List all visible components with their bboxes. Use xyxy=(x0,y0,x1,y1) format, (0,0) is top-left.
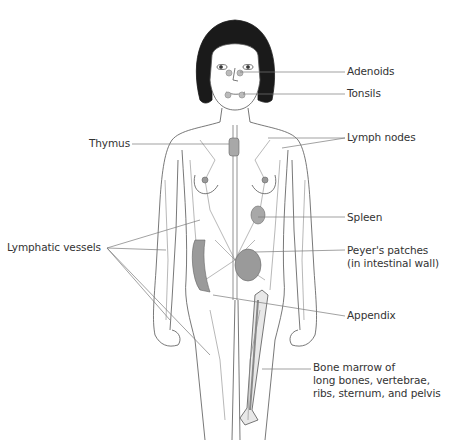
thymus-organ xyxy=(229,138,239,156)
label-thymus: Thymus xyxy=(89,137,130,150)
label-appendix: Appendix xyxy=(347,309,396,322)
label-lymph-nodes: Lymph nodes xyxy=(347,131,416,144)
label-bone-marrow: Bone marrow of long bones, vertebrae, ri… xyxy=(313,361,441,400)
label-spleen: Spleen xyxy=(347,211,382,224)
axillary-node-left xyxy=(202,177,208,183)
intestine-colon xyxy=(192,240,210,292)
label-bone-marrow-line1: Bone marrow of xyxy=(313,361,441,374)
label-tonsils: Tonsils xyxy=(347,87,381,100)
label-peyers-line1: Peyer's patches xyxy=(347,244,439,257)
label-adenoids: Adenoids xyxy=(347,65,394,78)
lymphoid-organs xyxy=(192,138,268,292)
label-bone-marrow-line3: ribs, sternum, and pelvis xyxy=(313,387,441,400)
face xyxy=(210,44,260,110)
label-peyers-patches: Peyer's patches (in intestinal wall) xyxy=(347,244,439,270)
body-outline xyxy=(153,20,316,440)
leader-lymphatic-b2 xyxy=(107,248,170,320)
label-lymphatic-vessels: Lymphatic vessels xyxy=(7,241,101,254)
label-bone-marrow-line2: long bones, vertebrae, xyxy=(313,374,441,387)
leader-lines xyxy=(107,72,345,369)
label-peyers-line2: (in intestinal wall) xyxy=(347,257,439,270)
leader-peyers xyxy=(255,250,345,252)
spleen-organ xyxy=(251,206,265,224)
leader-appendix xyxy=(213,295,345,316)
small-intestine-peyers-patches xyxy=(235,249,261,281)
axillary-node-right xyxy=(262,177,268,183)
leader-lymph-nodes-b xyxy=(282,138,345,148)
